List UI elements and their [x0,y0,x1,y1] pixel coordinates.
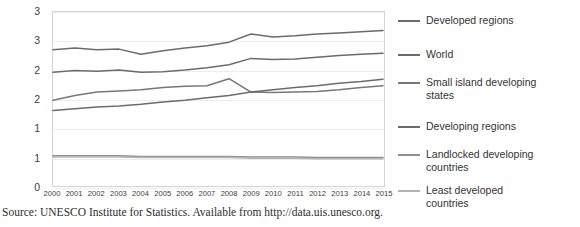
x-axis-tick-label: 2013 [331,189,348,198]
y-axis-tick-label: 3 [34,5,40,17]
legend-item-label: Landlocked developing countries [426,148,533,173]
x-axis-tick-label: 2000 [44,189,61,198]
legend-swatch-icon [398,82,420,84]
x-axis-tick-label: 2002 [88,189,105,198]
y-axis-tick-label: 3 [34,34,40,46]
legend-item[interactable]: World [398,48,576,61]
x-axis-tick-label: 2008 [221,189,238,198]
series-line [53,79,383,110]
legend-item-label: Developing regions [426,120,516,133]
chart-region: 0112233 20002001200220032004200520062007… [0,0,400,200]
plot-area [52,11,385,187]
legend-item[interactable]: Developed regions [398,14,576,27]
series-line [53,31,383,55]
x-axis-tick-label: 2004 [132,189,149,198]
legend-item-label: Developed regions [426,14,514,27]
x-axis-tick-label: 2009 [243,189,260,198]
legend-item[interactable]: Small island developing states [398,76,576,101]
x-axis-tick-label: 2005 [154,189,171,198]
x-axis: 2000200120022003200420052006200720082009… [52,189,385,203]
legend-swatch-icon [398,126,420,128]
series-line [53,53,383,72]
y-axis-tick-label: 0 [34,181,40,193]
source-caption: Source: UNESCO Institute for Statistics.… [2,206,562,218]
y-axis-tick-label: 2 [34,64,40,76]
x-axis-tick-label: 2006 [176,189,193,198]
x-axis-tick-label: 2007 [198,189,215,198]
figure-container: 0112233 20002001200220032004200520062007… [0,0,580,227]
y-axis-tick-label: 1 [34,122,40,134]
legend-item[interactable]: Developing regions [398,120,576,133]
legend-item-label: World [426,48,453,61]
legend-swatch-icon [398,54,420,56]
series-lines [53,12,384,186]
x-axis-tick-label: 2014 [353,189,370,198]
x-axis-tick-label: 2011 [287,189,303,198]
legend-swatch-icon [398,190,420,192]
y-axis-tick-label: 1 [34,152,40,164]
legend-item[interactable]: Landlocked developing countries [398,148,576,173]
legend-swatch-icon [398,154,420,156]
x-axis-tick-label: 2001 [66,189,83,198]
x-axis-tick-label: 2012 [309,189,326,198]
chart-legend: Developed regionsWorldSmall island devel… [398,6,578,192]
x-axis-tick-label: 2003 [110,189,127,198]
x-axis-tick-label: 2010 [265,189,282,198]
legend-swatch-icon [398,20,420,22]
legend-item-label: Small island developing states [426,76,536,101]
x-axis-tick-label: 2015 [376,189,393,198]
y-axis-tick-label: 2 [34,93,40,105]
y-axis: 0112233 [0,11,48,187]
